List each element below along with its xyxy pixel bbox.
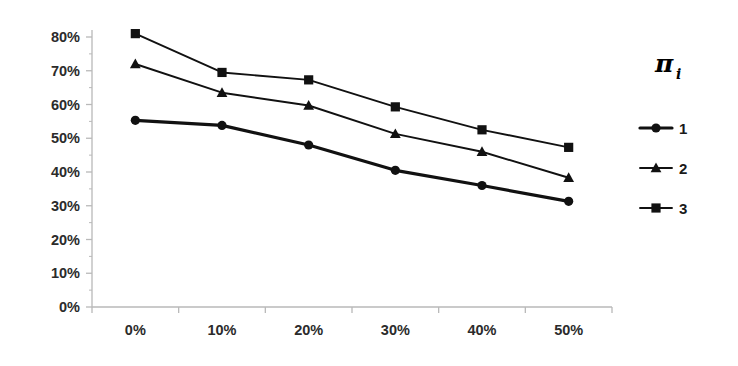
- data-point-square-marker: [304, 75, 313, 84]
- legend-title-subscript: i: [676, 66, 681, 82]
- y-axis-tick-label: 40%: [51, 164, 80, 180]
- data-point-circle-marker: [564, 197, 573, 206]
- chart-background: [0, 0, 738, 366]
- data-point-square-marker: [477, 125, 486, 134]
- data-point-square-marker: [391, 102, 400, 111]
- x-axis-tick-label: 40%: [467, 322, 496, 338]
- y-axis-tick-label: 10%: [51, 265, 80, 281]
- y-axis-tick-label: 50%: [51, 130, 80, 146]
- data-point-square-marker: [564, 143, 573, 152]
- x-axis-tick-label: 20%: [294, 322, 323, 338]
- y-axis-tick-label: 30%: [51, 198, 80, 214]
- legend-entry-label: 3: [679, 200, 687, 217]
- legend-entry-label: 1: [679, 120, 687, 137]
- data-point-circle-marker: [391, 166, 400, 175]
- data-point-square-marker: [131, 29, 140, 38]
- y-axis-tick-label: 80%: [51, 29, 80, 45]
- data-point-square-marker: [217, 68, 226, 77]
- data-point-circle-marker: [304, 140, 313, 149]
- legend-title: π: [654, 49, 674, 78]
- y-axis-tick-label: 70%: [51, 63, 80, 79]
- legend-entry-label: 2: [679, 160, 687, 177]
- x-axis-tick-label: 50%: [554, 322, 583, 338]
- data-point-circle-marker: [651, 123, 660, 132]
- data-point-circle-marker: [131, 116, 140, 125]
- data-point-circle-marker: [477, 181, 486, 190]
- y-axis-tick-label: 20%: [51, 232, 80, 248]
- y-axis-tick-labels: 0%10%20%30%40%50%60%70%80%: [51, 29, 80, 315]
- data-point-circle-marker: [217, 121, 226, 130]
- y-axis-tick-label: 60%: [51, 97, 80, 113]
- y-axis-tick-label: 0%: [59, 299, 80, 315]
- x-axis-tick-label: 0%: [125, 322, 146, 338]
- x-axis-tick-label: 30%: [381, 322, 410, 338]
- data-point-square-marker: [651, 203, 660, 212]
- x-axis-tick-label: 10%: [207, 322, 236, 338]
- chart-canvas: 0%10%20%30%40%50%60%70%80% 0%10%20%30%40…: [0, 0, 738, 366]
- line-chart: 0%10%20%30%40%50%60%70%80% 0%10%20%30%40…: [0, 0, 738, 366]
